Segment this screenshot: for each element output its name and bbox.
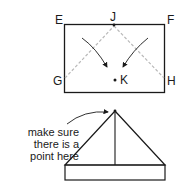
annotation-text: make sure there is a point here (28, 126, 79, 162)
annotation-line-1: make sure (28, 126, 79, 138)
diagram-canvas (0, 0, 185, 192)
bottom-strip (65, 165, 165, 180)
paper-rectangle (65, 25, 165, 93)
annotation-line-3: point here (28, 150, 79, 162)
label-e: E (55, 14, 63, 26)
label-k: K (120, 74, 128, 86)
fold-arrow-left (82, 38, 107, 67)
fold-line-left (65, 26, 114, 78)
point-j (113, 24, 116, 27)
apex-point (114, 110, 117, 113)
fold-arrow-right (123, 38, 148, 67)
label-f: F (167, 14, 174, 26)
label-g: G (53, 75, 62, 87)
annotation-arrow (67, 112, 108, 124)
point-k (114, 79, 117, 82)
annotation-line-2: there is a (28, 138, 79, 150)
fold-line-right (114, 26, 164, 78)
label-h: H (167, 75, 176, 87)
label-j: J (110, 11, 116, 23)
